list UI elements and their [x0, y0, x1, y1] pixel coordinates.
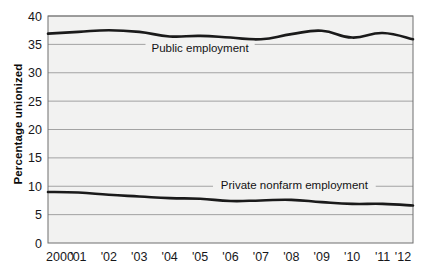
chart-figure: Percentage unionized 0510152025303540 20… [0, 0, 424, 269]
x-tick-label-2003: '03 [131, 250, 147, 264]
line-chart-plot: 0510152025303540 2000'01'02'03'04'05'06'… [0, 0, 424, 269]
y-tick-label-35: 35 [28, 38, 42, 52]
y-tick-label-25: 25 [28, 95, 42, 109]
x-axis-tick-labels: 2000'01'02'03'04'05'06'07'08'09'10'11'12 [46, 250, 411, 264]
x-tick-label-2007: '07 [253, 250, 269, 264]
series-label-public-employment: Public employment [152, 42, 250, 54]
y-axis-tick-labels: 0510152025303540 [28, 10, 42, 251]
x-tick-label-2010: '10 [344, 250, 360, 264]
y-tick-label-20: 20 [28, 123, 42, 137]
x-tick-label-2011: '11 [375, 250, 390, 264]
x-tick-label-2002: '02 [101, 250, 117, 264]
x-tick-label-2008: '08 [283, 250, 299, 264]
y-tick-label-15: 15 [28, 151, 42, 165]
y-tick-label-30: 30 [28, 66, 42, 80]
y-tick-label-0: 0 [35, 237, 42, 251]
x-tick-label-2004: '04 [162, 250, 178, 264]
x-tick-label-2001: '01 [70, 250, 86, 264]
series-label-private-nonfarm-employment: Private nonfarm employment [221, 179, 369, 191]
x-tick-label-2009: '09 [314, 250, 330, 264]
y-tick-label-5: 5 [35, 208, 42, 222]
y-tick-label-40: 40 [28, 10, 42, 24]
y-tick-label-10: 10 [28, 180, 42, 194]
x-tick-label-2005: '05 [192, 250, 208, 264]
x-tick-label-2012: '12 [395, 250, 411, 264]
x-tick-label-2006: '06 [222, 250, 238, 264]
